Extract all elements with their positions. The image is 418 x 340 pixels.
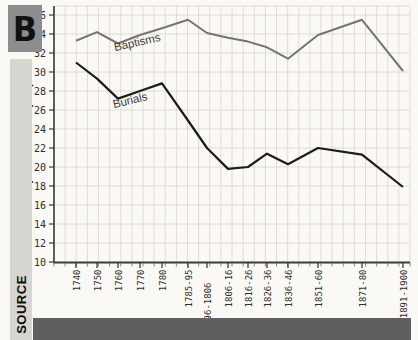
y-tick-label: 10 xyxy=(34,257,46,268)
x-tick-label: 1760 xyxy=(114,270,124,292)
x-tick-label: 1891-1900 xyxy=(399,270,409,319)
x-tick-label: 1871-80 xyxy=(358,270,368,308)
x-tick-label: 1780 xyxy=(158,270,168,292)
section-badge-label: B xyxy=(13,9,37,49)
line-chart: 3634323028262422201816141210174017501760… xyxy=(0,0,418,340)
y-tick-label: 12 xyxy=(34,238,46,249)
series-line-burials xyxy=(76,63,403,188)
x-tick-label: 1806-16 xyxy=(224,270,234,308)
x-tick-label: 1851-60 xyxy=(314,270,324,308)
x-tick-label: 1816-26 xyxy=(244,270,254,308)
x-tick-label: 1740 xyxy=(72,270,82,292)
x-tick-label: 1750 xyxy=(93,270,103,292)
y-tick-label: 22 xyxy=(34,143,46,154)
page: 3634323028262422201816141210174017501760… xyxy=(0,0,418,340)
y-tick-label: 16 xyxy=(34,200,46,211)
x-tick-label: 1785-95 xyxy=(184,270,194,308)
y-tick-label: 28 xyxy=(34,86,46,97)
y-tick-label: 20 xyxy=(34,162,46,173)
source-label: SOURCE xyxy=(14,275,29,334)
section-badge: B xyxy=(8,5,42,52)
y-tick-label: 18 xyxy=(34,181,46,192)
y-tick-label: 24 xyxy=(34,124,46,135)
x-tick-label: 1826-36 xyxy=(263,270,273,308)
x-tick-label: 1836-46 xyxy=(284,270,294,308)
source-bar: SOURCE xyxy=(10,59,32,340)
x-tick-label: 1770 xyxy=(136,270,146,292)
y-tick-label: 30 xyxy=(34,67,46,78)
y-tick-label: 14 xyxy=(34,219,46,230)
y-tick-label: 26 xyxy=(34,105,46,116)
grid xyxy=(54,6,410,263)
bottom-bar xyxy=(33,318,411,340)
